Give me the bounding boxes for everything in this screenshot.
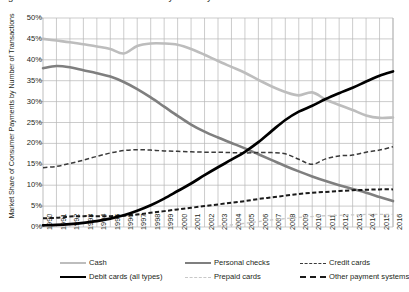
- legend-label: Debit cards (all types): [89, 272, 162, 282]
- legend-item-personal-checks[interactable]: Personal checks: [185, 256, 270, 270]
- legend-swatch-icon: [60, 276, 86, 278]
- legend-label: Other payment systems: [329, 272, 409, 282]
- legend-label: Credit cards: [329, 258, 370, 268]
- legend-item-debit-cards-all-types[interactable]: Debit cards (all types): [60, 270, 162, 284]
- legend-label: Prepaid cards: [214, 272, 261, 282]
- legend-item-prepaid-cards[interactable]: Prepaid cards: [185, 270, 261, 284]
- series-line-prepaid-cards: [218, 214, 393, 226]
- legend-row-1: CashPersonal checksCredit cards: [60, 256, 408, 270]
- legend-swatch-icon: [300, 276, 326, 278]
- chart-legend: CashPersonal checksCredit cards Debit ca…: [60, 256, 408, 290]
- legend-item-credit-cards[interactable]: Credit cards: [300, 256, 370, 270]
- legend-swatch-icon: [185, 277, 211, 278]
- legend-row-2: Debit cards (all types)Prepaid cardsOthe…: [60, 270, 408, 284]
- legend-item-cash[interactable]: Cash: [60, 256, 107, 270]
- legend-swatch-icon: [185, 262, 211, 264]
- legend-item-other-payment-systems[interactable]: Other payment systems: [300, 270, 409, 284]
- legend-swatch-icon: [60, 262, 86, 264]
- legend-label: Personal checks: [214, 258, 270, 268]
- legend-label: Cash: [89, 258, 107, 268]
- legend-swatch-icon: [300, 263, 326, 264]
